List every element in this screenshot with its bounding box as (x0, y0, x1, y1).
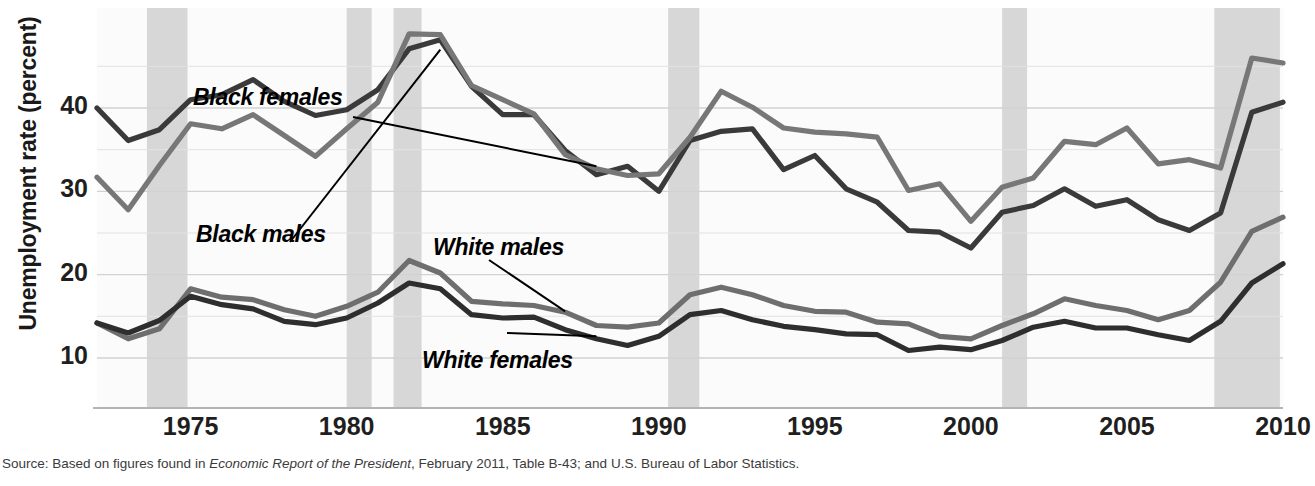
annotation-label-black-females: Black females (193, 84, 343, 111)
source-note: Source: Based on figures found in Econom… (2, 456, 1302, 471)
y-tick-label-10: 10 (40, 341, 88, 370)
x-tick-label-1975: 1975 (131, 412, 251, 441)
x-tick-label-2000: 2000 (911, 412, 1031, 441)
plot-area: Unemployment rate (percent) 10203040 197… (0, 0, 1304, 450)
x-tick-label-1990: 1990 (599, 412, 719, 441)
recession-bands-group (97, 8, 1283, 408)
x-tick-label-2010: 2010 (1223, 412, 1315, 441)
x-tick-label-1985: 1985 (443, 412, 563, 441)
x-tick-label-1995: 1995 (755, 412, 875, 441)
y-tick-label-40: 40 (40, 91, 88, 120)
annotation-label-white-males: White males (433, 234, 564, 261)
y-axis-tick-labels: 10203040 (36, 0, 88, 450)
annotation-label-black-males: Black males (196, 221, 326, 248)
annotation-label-white-females: White females (422, 347, 573, 374)
y-tick-label-30: 30 (40, 174, 88, 203)
y-tick-label-20: 20 (40, 258, 88, 287)
x-tick-label-2005: 2005 (1067, 412, 1187, 441)
x-tick-label-1980: 1980 (287, 412, 407, 441)
source-publication-title: Economic Report of the President (209, 456, 411, 471)
